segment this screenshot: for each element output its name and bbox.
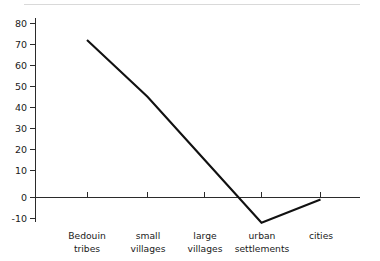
y-tick-label: 40	[15, 102, 27, 113]
y-tick-marks	[30, 24, 36, 219]
y-tick-label: 80	[15, 18, 27, 29]
cat-label-bedouin-tribes-line2: tribes	[74, 243, 100, 254]
cat-label-large-villages-line2: villages	[188, 243, 223, 254]
y-tick-label: -10	[11, 213, 27, 224]
y-tick-label: 70	[15, 39, 27, 50]
x-category-labels: Bedouin tribes small villages large vill…	[68, 230, 333, 254]
y-tick-label: 10	[15, 165, 27, 176]
y-tick-label: 50	[15, 81, 27, 92]
y-tick-label: 20	[15, 144, 27, 155]
cat-label-bedouin-tribes-line1: Bedouin	[68, 230, 106, 241]
cat-label-cities-line1: cities	[309, 230, 333, 241]
x-tick-marks	[88, 192, 321, 198]
series-line-0	[87, 40, 321, 223]
y-tick-label: 30	[15, 123, 27, 134]
y-tick-label: 0	[21, 192, 27, 203]
cat-label-urban-settlements-line2: settlements	[235, 243, 290, 254]
cat-label-small-villages-line1: small	[136, 230, 160, 241]
y-tick-label: 60	[15, 60, 27, 71]
cat-label-urban-settlements-line1: urban	[249, 230, 276, 241]
y-tick-labels: 80 70 60 50 40 30 20 10 0 -10	[11, 18, 27, 224]
cat-label-large-villages-line1: large	[193, 230, 217, 241]
cat-label-small-villages-line2: villages	[131, 243, 166, 254]
chart-figure: 80 70 60 50 40 30 20 10 0 -10 Bedouin tr…	[0, 0, 380, 261]
line-chart: 80 70 60 50 40 30 20 10 0 -10 Bedouin tr…	[0, 0, 380, 261]
